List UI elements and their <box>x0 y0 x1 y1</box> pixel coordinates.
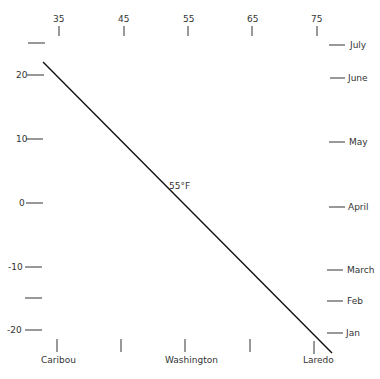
right-tick-label: April <box>348 202 369 212</box>
left-tick-label: 10 <box>16 134 28 144</box>
bottom-axis: Caribou Washington Laredo <box>41 339 334 365</box>
top-tick-label: 65 <box>247 14 258 24</box>
bottom-tick-label: Caribou <box>41 355 76 365</box>
right-tick-label: March <box>347 265 374 275</box>
top-tick-label: 45 <box>118 14 129 24</box>
left-tick-label: -20 <box>7 325 22 335</box>
right-tick-label: May <box>349 137 368 147</box>
right-tick-label: Feb <box>347 296 363 306</box>
top-tick-label: 55 <box>183 14 194 24</box>
left-tick-label: 20 <box>16 70 28 80</box>
bottom-tick-label: Washington <box>165 355 218 365</box>
right-axis: July June May April March Feb Jan <box>327 40 374 338</box>
annotation-label: 55°F <box>169 181 190 191</box>
right-tick-label: July <box>349 40 367 50</box>
chart: 35 45 55 65 75 20 10 0 -10 -20 July June… <box>0 0 380 379</box>
top-axis: 35 45 55 65 75 <box>53 14 322 36</box>
left-tick-label: -10 <box>8 262 23 272</box>
left-axis: 20 10 0 -10 -20 <box>7 43 45 335</box>
left-tick-label: 0 <box>19 198 25 208</box>
top-tick-label: 75 <box>311 14 322 24</box>
right-tick-label: June <box>347 73 368 83</box>
bottom-tick-label: Laredo <box>303 355 334 365</box>
right-tick-label: Jan <box>345 328 360 338</box>
temperature-line <box>43 62 332 353</box>
top-tick-label: 35 <box>53 14 64 24</box>
